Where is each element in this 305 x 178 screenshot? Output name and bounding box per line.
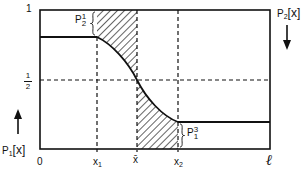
p2-of-x-label: P2[x] xyxy=(277,7,300,20)
p2-letter: P xyxy=(277,8,284,19)
p1-letter: P xyxy=(2,145,9,156)
y-label-half: 1 2 xyxy=(24,72,32,91)
x-label-origin: 0 xyxy=(37,157,43,167)
x-label-x1: x1 xyxy=(93,157,102,168)
p13-letter: P xyxy=(187,127,194,138)
x1-subscript: 1 xyxy=(98,161,102,168)
half-numerator: 1 xyxy=(26,71,30,80)
p1-of-x-label: P1[x] xyxy=(2,144,25,157)
x2-subscript: 2 xyxy=(179,161,183,168)
x-label-x2: x2 xyxy=(174,157,183,168)
diagram-canvas xyxy=(0,0,305,178)
x-label-ell: ℓ xyxy=(266,153,272,168)
down-arrow-icon xyxy=(283,25,291,50)
upper-brace-icon xyxy=(91,12,96,35)
p21-letter: P xyxy=(75,14,82,25)
x-label-xbar: x̄ xyxy=(133,155,138,165)
p13-sub: 1 xyxy=(194,132,198,141)
lower-brace-icon xyxy=(180,124,185,147)
p21-sub: 2 xyxy=(82,19,86,28)
p2-argument: [x] xyxy=(288,6,301,20)
up-arrow-icon xyxy=(14,109,22,134)
p1-3-label: P31 xyxy=(187,127,198,141)
half-denominator: 2 xyxy=(26,82,30,91)
p1-argument: [x] xyxy=(13,143,26,157)
y-label-one: 1 xyxy=(26,4,32,14)
p2-1-label: P12 xyxy=(75,14,86,28)
